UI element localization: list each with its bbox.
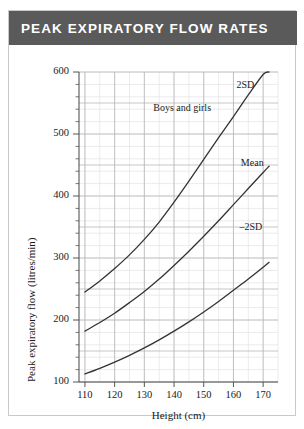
annotation-label: 2SD: [236, 79, 254, 90]
axis-ticks: [73, 72, 263, 387]
y-tick-label: 300: [9, 251, 69, 262]
annotation-label: Boys and girls: [153, 102, 211, 113]
y-tick-label: 400: [9, 189, 69, 200]
chart-card: PEAK EXPIRATORY FLOW RATES Peak expirato…: [8, 10, 296, 416]
annotation-label: Mean: [241, 157, 264, 168]
y-tick-label: 200: [9, 313, 69, 324]
y-tick-label: 500: [9, 127, 69, 138]
y-tick-label: 100: [9, 375, 69, 386]
page-title: PEAK EXPIRATORY FLOW RATES: [9, 21, 269, 36]
y-tick-label: 600: [9, 65, 69, 76]
annotation-label: –2SD: [239, 221, 262, 232]
x-tick-label: 170: [243, 389, 283, 400]
chart-title-bar: PEAK EXPIRATORY FLOW RATES: [9, 11, 297, 45]
x-axis-label: Height (cm): [79, 409, 278, 421]
plot-container: Peak expiratory flow (litres/min) Height…: [9, 45, 297, 417]
